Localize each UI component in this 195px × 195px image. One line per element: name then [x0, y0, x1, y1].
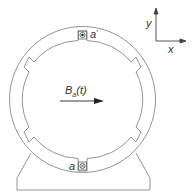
- machine-diagram: [0, 0, 195, 195]
- top-coil-prime: ′: [96, 29, 97, 36]
- field-argument: (t): [76, 84, 86, 96]
- top-coil-label: a′: [90, 29, 97, 40]
- y-axis-label: y: [146, 18, 152, 29]
- x-axis-label: x: [168, 44, 174, 55]
- bottom-coil-label: a: [69, 161, 75, 172]
- field-label: Ba(t): [65, 85, 87, 98]
- stator-outer-circle: [10, 27, 156, 173]
- xy-axes-icon: [154, 8, 186, 43]
